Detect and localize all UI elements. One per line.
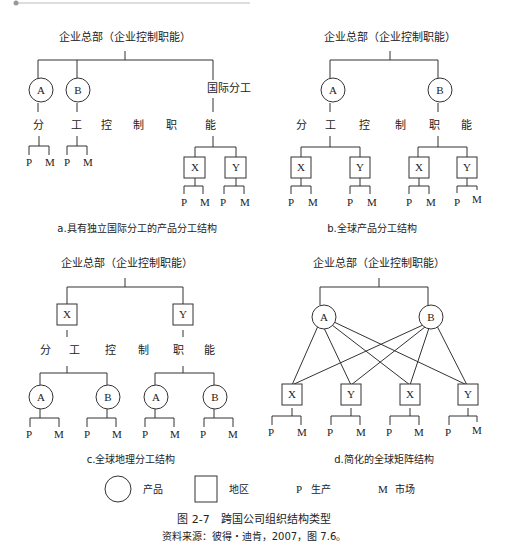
svg-text:分: 分 bbox=[33, 119, 44, 132]
org-structure-figure: 企业总部（企业控制职能） A B 国际分工 分 工 控 制 职 能 P M P … bbox=[0, 0, 509, 548]
svg-text:工: 工 bbox=[71, 119, 82, 132]
figure-source: 资料来源：彼得・迪肯，2007，图 7.6。 bbox=[162, 530, 347, 542]
svg-text:能: 能 bbox=[205, 118, 216, 132]
panel-caption: d.简化的全球矩阵结构 bbox=[334, 453, 434, 465]
svg-text:M: M bbox=[356, 426, 366, 438]
svg-text:B: B bbox=[211, 391, 218, 403]
svg-text:P: P bbox=[445, 426, 451, 438]
svg-text:Y: Y bbox=[232, 161, 240, 173]
svg-text:X: X bbox=[406, 388, 414, 400]
svg-text:B: B bbox=[427, 311, 434, 323]
svg-text:P: P bbox=[220, 196, 226, 208]
svg-text:X: X bbox=[288, 388, 296, 400]
svg-text:能: 能 bbox=[461, 118, 472, 132]
panel-caption: b.全球产品分工结构 bbox=[327, 222, 417, 234]
svg-text:B: B bbox=[104, 391, 111, 403]
panel-b: 企业总部（企业控制职能） A B 分 工 控 制 职 能 X Y X Y P M… bbox=[288, 30, 482, 234]
svg-text:X: X bbox=[191, 161, 199, 173]
svg-text:P: P bbox=[200, 428, 206, 440]
svg-text:市场: 市场 bbox=[395, 483, 415, 495]
svg-text:M: M bbox=[308, 196, 318, 208]
svg-text:地区: 地区 bbox=[229, 483, 249, 495]
svg-text:制: 制 bbox=[138, 344, 149, 357]
hq-label: 企业总部（企业控制职能） bbox=[313, 256, 445, 270]
svg-text:Y: Y bbox=[464, 388, 472, 400]
hq-label: 企业总部（企业控制职能） bbox=[324, 30, 456, 44]
legend-product-icon bbox=[105, 476, 131, 502]
panel-d: 企业总部（企业控制职能） A B X Y X Y P M P M P M P M… bbox=[268, 256, 482, 465]
svg-text:M: M bbox=[240, 196, 250, 208]
svg-text:A: A bbox=[37, 84, 45, 96]
panel-a: 企业总部（企业控制职能） A B 国际分工 分 工 控 制 职 能 P M P … bbox=[26, 30, 251, 234]
svg-text:M: M bbox=[170, 428, 180, 440]
svg-text:M: M bbox=[200, 196, 210, 208]
svg-text:P: P bbox=[268, 426, 274, 438]
svg-text:A: A bbox=[152, 391, 160, 403]
svg-text:M: M bbox=[297, 426, 307, 438]
svg-text:M: M bbox=[472, 424, 482, 436]
svg-text:B: B bbox=[436, 84, 443, 96]
svg-text:P: P bbox=[64, 156, 70, 168]
svg-text:控: 控 bbox=[105, 343, 116, 357]
svg-text:M: M bbox=[472, 193, 482, 205]
hq-label: 企业总部（企业控制职能） bbox=[59, 30, 191, 44]
intl-division-label: 国际分工 bbox=[207, 82, 251, 95]
panel-caption: c.全球地理分工结构 bbox=[87, 453, 176, 465]
svg-text:P: P bbox=[84, 428, 90, 440]
svg-text:P: P bbox=[288, 196, 294, 208]
svg-text:Y: Y bbox=[347, 388, 355, 400]
svg-text:M: M bbox=[378, 483, 388, 495]
svg-text:P: P bbox=[296, 483, 302, 495]
svg-text:A: A bbox=[329, 84, 337, 96]
svg-text:B: B bbox=[74, 84, 81, 96]
svg-text:职: 职 bbox=[166, 119, 177, 132]
svg-text:工: 工 bbox=[325, 119, 336, 132]
svg-text:P: P bbox=[347, 196, 353, 208]
svg-text:分: 分 bbox=[40, 344, 51, 357]
svg-text:A: A bbox=[320, 311, 328, 323]
legend: 产品 地区 P 生产 M 市场 bbox=[105, 476, 415, 502]
svg-text:M: M bbox=[83, 156, 93, 168]
svg-text:P: P bbox=[142, 428, 148, 440]
svg-text:A: A bbox=[37, 391, 45, 403]
svg-text:M: M bbox=[45, 156, 55, 168]
svg-text:职: 职 bbox=[173, 344, 184, 357]
svg-text:Y: Y bbox=[463, 161, 471, 173]
svg-text:P: P bbox=[406, 196, 412, 208]
hq-label: 企业总部（企业控制职能） bbox=[61, 256, 193, 270]
svg-text:P: P bbox=[386, 426, 392, 438]
svg-text:控: 控 bbox=[101, 118, 112, 132]
svg-text:Y: Y bbox=[356, 161, 364, 173]
svg-text:Y: Y bbox=[179, 308, 187, 320]
figure-title: 图 2-7 跨国公司组织结构类型 bbox=[177, 512, 330, 526]
svg-text:生产: 生产 bbox=[311, 483, 331, 495]
svg-text:能: 能 bbox=[204, 343, 215, 357]
svg-text:M: M bbox=[367, 196, 377, 208]
svg-text:分: 分 bbox=[296, 119, 307, 132]
legend-region-icon bbox=[195, 476, 217, 502]
panel-c: 企业总部（企业控制职能） X Y 分 工 控 制 职 能 A B A B P M… bbox=[26, 256, 238, 465]
bullet-icon bbox=[14, 1, 19, 6]
svg-text:制: 制 bbox=[133, 119, 144, 132]
svg-text:M: M bbox=[112, 428, 122, 440]
svg-text:P: P bbox=[327, 426, 333, 438]
svg-text:M: M bbox=[54, 428, 64, 440]
svg-text:M: M bbox=[228, 428, 238, 440]
svg-text:M: M bbox=[414, 426, 424, 438]
svg-text:控: 控 bbox=[359, 118, 370, 132]
svg-text:X: X bbox=[63, 308, 71, 320]
svg-text:P: P bbox=[26, 156, 32, 168]
svg-text:P: P bbox=[454, 196, 460, 208]
svg-text:工: 工 bbox=[69, 344, 80, 357]
svg-text:X: X bbox=[415, 161, 423, 173]
panel-caption: a.具有独立国际分工的产品分工结构 bbox=[57, 222, 216, 234]
svg-text:P: P bbox=[181, 196, 187, 208]
svg-text:X: X bbox=[297, 161, 305, 173]
svg-text:P: P bbox=[26, 428, 32, 440]
svg-text:职: 职 bbox=[429, 119, 440, 132]
svg-text:M: M bbox=[426, 196, 436, 208]
svg-text:产品: 产品 bbox=[143, 483, 163, 495]
svg-text:制: 制 bbox=[395, 119, 406, 132]
